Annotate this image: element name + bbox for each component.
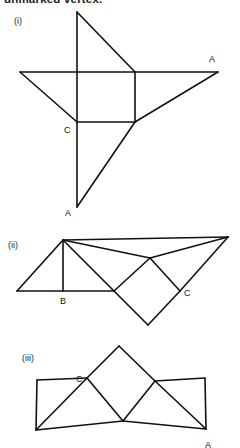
segment: [36, 380, 37, 430]
segment: [123, 421, 206, 429]
figure-caption-2: (ii): [8, 240, 18, 250]
vertex-label-a: A: [65, 208, 71, 218]
segment: [114, 258, 150, 291]
segment: [36, 378, 87, 430]
figure-caption-3: (iii): [22, 353, 34, 363]
segment: [180, 237, 228, 291]
segment: [119, 346, 155, 381]
figure-2-strokes: [17, 237, 228, 325]
segment: [155, 378, 205, 381]
vertex-label-a: A: [209, 54, 215, 64]
vertex-label-c: C: [76, 374, 83, 384]
vertex-label-a: A: [205, 440, 211, 448]
vertex-label-b: B: [60, 296, 66, 306]
segment: [135, 72, 218, 122]
segment: [17, 240, 63, 291]
segment: [205, 378, 206, 429]
segment: [150, 258, 180, 291]
vertex-label-c: C: [184, 288, 191, 298]
figures-linework: [0, 0, 240, 448]
segment: [63, 240, 114, 291]
figure-3-strokes: [36, 346, 206, 430]
segment: [63, 237, 228, 240]
segment: [20, 72, 77, 122]
segment: [77, 12, 135, 72]
diagram-page: unmarked vertex. (i)ACA(ii)BC(iii)CA: [0, 0, 240, 448]
figure-caption-1: (i): [14, 16, 22, 26]
figure-1-strokes: [20, 12, 218, 207]
segment: [77, 122, 135, 207]
vertex-label-c: C: [64, 125, 71, 135]
segment: [87, 346, 119, 378]
segment: [123, 381, 155, 421]
segment: [63, 240, 150, 258]
segment: [114, 291, 148, 325]
segment: [148, 291, 180, 325]
segment: [150, 237, 228, 258]
segment: [87, 378, 123, 421]
segment: [36, 421, 123, 430]
segment: [155, 381, 206, 429]
